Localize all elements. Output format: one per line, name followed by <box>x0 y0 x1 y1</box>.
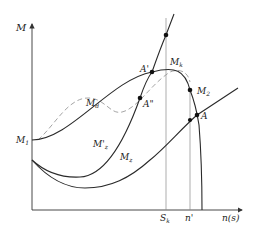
mk-curve <box>32 69 202 210</box>
point-a <box>195 113 200 118</box>
point-a-double-prime <box>138 96 143 101</box>
n-prime-tick-label: n' <box>185 213 193 223</box>
a-prime-label: A' <box>139 64 149 74</box>
mz-prime-curve <box>32 14 174 177</box>
m1-label: M1 <box>15 135 29 146</box>
x-axis-label: n(s) <box>222 213 240 223</box>
md-curve <box>38 70 190 140</box>
point-top <box>164 33 169 38</box>
mz-label: Mz <box>119 152 133 163</box>
a-label: A <box>200 111 208 121</box>
mk-label: Mk <box>169 57 183 68</box>
point-n-prime <box>188 118 192 122</box>
sk-tick-label: Sk <box>160 213 170 224</box>
diagram-canvas: M n(s) Sk n' M1 Md Mk M2 M'z Mz A' A" A <box>0 0 256 234</box>
a-double-prime-label: A" <box>142 99 154 109</box>
mz-prime-label: M'z <box>92 139 109 150</box>
m2-label: M2 <box>196 86 210 97</box>
mz-curve <box>32 88 238 188</box>
point-a-prime <box>150 70 155 75</box>
y-axis-label: M <box>15 22 27 33</box>
point-m2 <box>188 88 193 93</box>
